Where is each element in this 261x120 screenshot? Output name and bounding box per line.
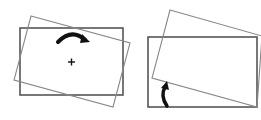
rotated-rectangle [152,10,261,107]
panel-rotate-about-center [14,16,130,107]
pivot-plus-icon [68,59,75,66]
curved-up-arrow-icon [161,81,169,106]
clockwise-arrow-icon [58,34,90,43]
rotation-diagram [0,0,261,120]
panel-rotate-about-corner [148,10,261,107]
